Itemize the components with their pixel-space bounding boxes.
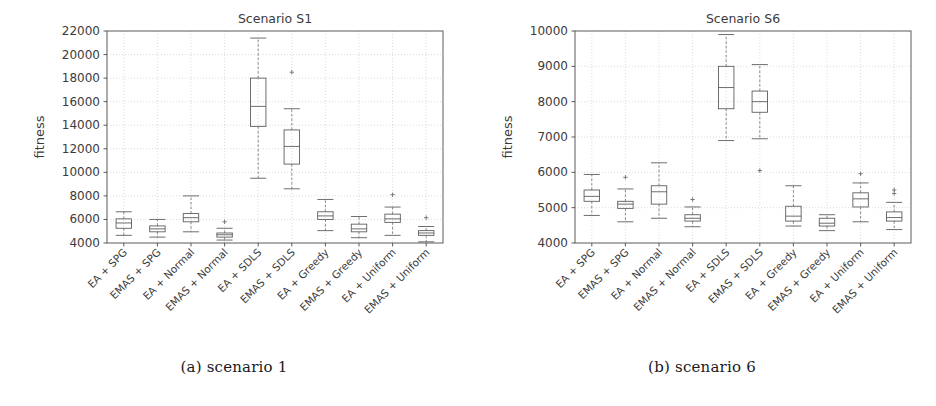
outlier-marker <box>390 193 394 197</box>
x-tick-label: EMAS + Uniform <box>362 246 432 316</box>
box-iqr <box>651 186 666 204</box>
box-plot-group <box>718 35 734 141</box>
boxplot-figure: 4000600080001000012000140001600018000200… <box>0 0 936 406</box>
y-tick-label: 20000 <box>62 48 100 62</box>
box-iqr <box>385 214 400 222</box>
y-tick-label: 6000 <box>69 212 100 226</box>
outlier-marker <box>690 197 694 201</box>
outlier-marker <box>424 215 428 219</box>
box-plot-group <box>617 175 633 222</box>
x-tick-label: EMAS + Normal <box>631 246 698 313</box>
chart-scenario-s6: 40005000600070008000900010000fitnessEA +… <box>468 0 936 360</box>
box-plot-group <box>819 215 835 231</box>
box-iqr <box>351 224 366 232</box>
y-tick-label: 7000 <box>537 130 568 144</box>
box-plot-group <box>584 174 600 215</box>
outlier-marker <box>623 175 627 179</box>
y-tick-label: 6000 <box>537 165 568 179</box>
y-tick-label: 8000 <box>537 95 568 109</box>
y-tick-label: 10000 <box>530 24 568 38</box>
outlier-marker <box>290 70 294 74</box>
y-tick-label: 10000 <box>62 165 100 179</box>
y-tick-label: 14000 <box>62 118 100 132</box>
caption-panel-a: (a) scenario 1 <box>0 358 468 376</box>
panel-scenario-1: 4000600080001000012000140001600018000200… <box>0 0 468 406</box>
y-tick-label: 4000 <box>537 236 568 250</box>
chart-title: Scenario S1 <box>238 11 312 26</box>
y-tick-label: 16000 <box>62 95 100 109</box>
y-tick-label: 18000 <box>62 71 100 85</box>
box-plot-group <box>284 70 300 189</box>
box-plot-group <box>685 197 701 226</box>
x-tick-label: EMAS + Normal <box>163 246 230 313</box>
box-plot-group <box>752 65 768 173</box>
outlier-marker <box>222 220 226 224</box>
box-plot-group <box>385 193 401 236</box>
y-tick-label: 8000 <box>69 189 100 203</box>
y-tick-label: 4000 <box>69 236 100 250</box>
y-axis-label: fitness <box>32 115 47 158</box>
box-plot-group <box>317 199 333 230</box>
box-iqr <box>819 218 834 226</box>
box-plot-group <box>785 186 801 226</box>
x-tick-label: EMAS + Uniform <box>830 246 900 316</box>
x-tick-label: EMAS + Greedy <box>297 246 364 313</box>
y-tick-label: 12000 <box>62 142 100 156</box>
y-tick-label: 9000 <box>537 59 568 73</box>
y-tick-label: 5000 <box>537 201 568 215</box>
chart-scenario-s1: 4000600080001000012000140001600018000200… <box>0 0 468 360</box>
y-tick-label: 22000 <box>62 24 100 38</box>
box-iqr <box>886 212 901 221</box>
y-axis-label: fitness <box>500 115 515 158</box>
box-plot-group <box>149 219 165 237</box>
box-plot-group <box>183 196 199 232</box>
caption-panel-b: (b) scenario 6 <box>468 358 936 376</box>
outlier-marker <box>892 188 896 192</box>
outlier-marker <box>858 172 862 176</box>
x-tick-label: EMAS + Greedy <box>765 246 832 313</box>
chart-title: Scenario S6 <box>706 11 780 26</box>
panel-scenario-6: 40005000600070008000900010000fitnessEA +… <box>468 0 936 406</box>
box-iqr <box>284 130 299 164</box>
